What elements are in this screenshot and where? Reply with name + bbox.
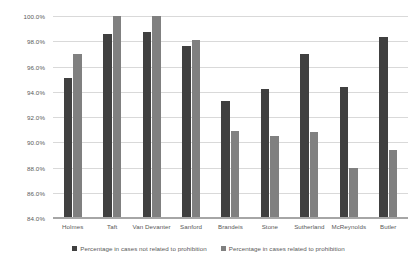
x-axis-tick-label: Butler [369, 221, 408, 232]
y-axis-tick-label: 84.0% [27, 215, 45, 222]
bar[interactable] [64, 78, 73, 218]
y-axis: 100.0%98.0%96.0%94.0%92.0%90.0%88.0%86.0… [0, 16, 48, 218]
bar[interactable] [192, 40, 201, 218]
bar-group [211, 16, 250, 218]
legend-label: Percentage in cases not related to prohi… [80, 245, 206, 252]
y-axis-tick-label: 86.0% [27, 189, 45, 196]
legend-color-swatch [221, 246, 226, 251]
bar[interactable] [389, 150, 398, 218]
bar[interactable] [103, 34, 112, 218]
x-axis-tick-label: Stone [250, 221, 289, 232]
legend-color-swatch [72, 246, 77, 251]
x-axis-tick-label: Taft [92, 221, 131, 232]
x-axis-tick-label: Brandeis [211, 221, 250, 232]
x-axis-tick-label: Van Devanter [132, 221, 171, 232]
legend-item[interactable]: Percentage in cases not related to prohi… [72, 245, 206, 252]
y-axis-tick-label: 88.0% [27, 164, 45, 171]
bar-group [53, 16, 92, 218]
bar-group [250, 16, 289, 218]
x-axis-tick-label: Sutherland [290, 221, 329, 232]
bar[interactable] [231, 131, 240, 218]
bar[interactable] [379, 37, 388, 218]
bar-groups [53, 16, 408, 218]
bar-group [329, 16, 368, 218]
x-axis-tick-label: Sanford [171, 221, 210, 232]
x-axis-tick-label: Holmes [53, 221, 92, 232]
bar-group [369, 16, 408, 218]
bar[interactable] [310, 132, 319, 218]
bar[interactable] [113, 16, 122, 218]
y-axis-tick-label: 90.0% [27, 139, 45, 146]
bar[interactable] [340, 87, 349, 218]
bar-chart: 100.0%98.0%96.0%94.0%92.0%90.0%88.0%86.0… [0, 0, 417, 257]
bar-group [290, 16, 329, 218]
bar-group [132, 16, 171, 218]
bar[interactable] [270, 136, 279, 218]
x-axis: HolmesTaftVan DevanterSanfordBrandeisSto… [53, 221, 408, 232]
x-axis-tick-label: McReynolds [329, 221, 368, 232]
y-axis-tick-label: 96.0% [27, 63, 45, 70]
y-axis-tick-label: 94.0% [27, 88, 45, 95]
bar[interactable] [73, 54, 82, 218]
bar[interactable] [143, 32, 152, 218]
bar[interactable] [152, 16, 161, 218]
bar[interactable] [300, 54, 309, 218]
plot-area [53, 16, 408, 218]
bar-group [92, 16, 131, 218]
bar[interactable] [349, 168, 358, 219]
chart-legend: Percentage in cases not related to prohi… [0, 241, 417, 255]
x-axis-line [53, 217, 408, 219]
y-axis-tick-label: 92.0% [27, 114, 45, 121]
y-axis-tick-label: 100.0% [23, 13, 45, 20]
bar[interactable] [182, 46, 191, 218]
bar[interactable] [261, 89, 270, 218]
y-axis-tick-label: 98.0% [27, 38, 45, 45]
legend-item[interactable]: Percentage in cases related to prohibiti… [221, 245, 345, 252]
chart-title [0, 0, 417, 10]
legend-label: Percentage in cases related to prohibiti… [229, 245, 345, 252]
bar[interactable] [221, 101, 230, 218]
bar-group [171, 16, 210, 218]
